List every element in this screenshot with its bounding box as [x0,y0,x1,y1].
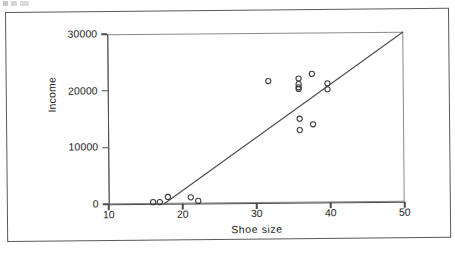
data-point [297,116,302,121]
data-point [296,76,301,81]
data-point [325,87,330,92]
data-points-layer [0,0,455,255]
data-point [297,127,302,132]
data-point [188,195,193,200]
data-point [310,122,315,127]
data-point [309,71,314,76]
data-point [266,78,271,83]
scatter-chart: 0100002000030000 1020304050 Income Shoe … [0,0,455,255]
data-point [325,81,330,86]
data-point [165,194,170,199]
data-point [150,200,155,205]
data-point [196,198,201,203]
data-point [157,200,162,205]
